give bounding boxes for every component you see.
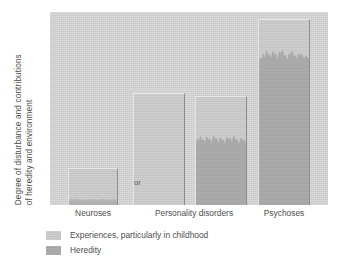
bar-psychoses[interactable] (258, 19, 310, 205)
y-axis-label-line-2: of heredity and environment (26, 100, 34, 206)
plot-area (50, 12, 328, 205)
bar-personality-disorders-a[interactable] (133, 93, 185, 205)
segment-transition-edge (69, 195, 117, 202)
x-tick-label-psychoses: Psychoses (234, 208, 334, 218)
legend-label-experiences: Experiences, particularly in childhood (70, 230, 208, 241)
segment-transition-edge (259, 42, 309, 70)
legend-swatch-heredity (46, 246, 61, 255)
bar-segment-heredity (259, 69, 309, 205)
bar-segment-heredity (196, 151, 246, 205)
bar-segment-experiences (134, 94, 184, 205)
bar-segment-heredity (69, 201, 117, 205)
y-axis-label-line-1: Degree of disturbance and contributions (15, 54, 23, 205)
legend-label-heredity: Heredity (70, 245, 101, 256)
bar-neuroses[interactable] (68, 168, 118, 205)
x-tick-label-neuroses: Neuroses (43, 208, 143, 218)
y-axis-label: Degree of disturbance and contributions … (0, 0, 50, 205)
segment-transition-edge (196, 126, 246, 152)
chart-figure: Degree of disturbance and contributions … (0, 0, 341, 260)
bar-personality-disorders-b[interactable] (195, 96, 247, 205)
x-tick-label-personality-disorders: Personality disorders (139, 208, 249, 218)
or-separator-label: or (134, 178, 141, 187)
legend-swatch-experiences (46, 231, 61, 240)
